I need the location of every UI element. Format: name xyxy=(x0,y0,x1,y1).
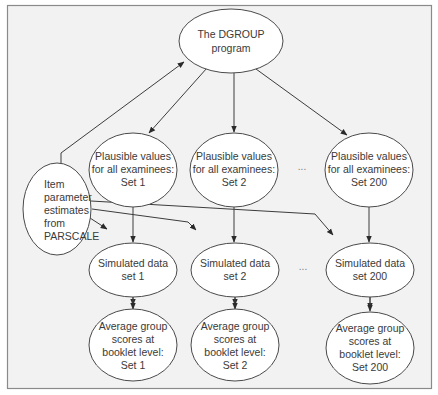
node-pv1: Plausible values for all examinees: Set … xyxy=(89,133,177,207)
node-pv2-line1: Plausible values xyxy=(196,150,272,162)
node-avg200-line2: scores at xyxy=(349,335,392,347)
node-avg1-line4: Set 1 xyxy=(121,359,146,371)
ellipsis-pv: ... xyxy=(298,161,306,172)
node-sim2: Simulated data set 2 xyxy=(191,243,279,297)
node-sim1-line2: set 1 xyxy=(122,270,145,282)
node-avg2-line3: booklet level: xyxy=(204,346,265,358)
node-pv200-line3: Set 200 xyxy=(351,176,387,188)
node-avg1-line1: Average group xyxy=(99,320,168,332)
node-avg1-line2: scores at xyxy=(112,333,155,345)
node-sim200-line1: Simulated data xyxy=(335,257,405,269)
node-pv200-line1: Plausible values xyxy=(331,150,407,162)
node-avg200: Average group scores at booklet level: S… xyxy=(326,312,414,384)
node-pv200-line2: for all examinees: xyxy=(328,163,410,175)
node-parscale-line2: parameter xyxy=(44,191,92,203)
node-avg2-line4: Set 2 xyxy=(223,359,248,371)
node-pv2-line2: for all examinees: xyxy=(193,163,275,175)
node-pv1-line2: for all examinees: xyxy=(92,163,174,175)
node-avg200-line4: Set 200 xyxy=(352,361,388,373)
node-avg2-line1: Average group xyxy=(201,320,270,332)
node-sim2-line2: set 2 xyxy=(224,270,247,282)
node-pv1-line1: Plausible values xyxy=(95,150,171,162)
flow-diagram: The DGROUP program Plausible values for … xyxy=(0,0,438,395)
node-dgroup-line1: The DGROUP xyxy=(197,28,264,40)
node-avg2-line2: scores at xyxy=(214,333,257,345)
node-avg2: Average group scores at booklet level: S… xyxy=(191,309,279,381)
node-pv200: Plausible values for all examinees: Set … xyxy=(325,133,413,207)
node-avg1: Average group scores at booklet level: S… xyxy=(89,309,177,381)
node-dgroup-line2: program xyxy=(211,42,250,54)
node-sim1-line1: Simulated data xyxy=(98,257,168,269)
node-avg200-line1: Average group xyxy=(336,322,405,334)
node-sim2-line1: Simulated data xyxy=(200,257,270,269)
node-dgroup: The DGROUP program xyxy=(179,9,283,73)
node-avg1-line3: booklet level: xyxy=(102,346,163,358)
node-sim200-line2: set 200 xyxy=(353,270,388,282)
node-parscale-line5: PARSCALE xyxy=(44,230,99,242)
node-avg200-line3: booklet level: xyxy=(339,348,400,360)
node-sim1: Simulated data set 1 xyxy=(89,243,177,297)
node-pv2: Plausible values for all examinees: Set … xyxy=(190,133,278,207)
node-parscale-line4: from xyxy=(44,217,65,229)
ellipsis-sim: ... xyxy=(299,261,307,272)
node-sim200: Simulated data set 200 xyxy=(326,243,414,297)
node-pv1-line3: Set 1 xyxy=(121,176,146,188)
node-parscale-line1: Item xyxy=(44,178,65,190)
node-parscale-line3: estimates xyxy=(44,204,89,216)
node-pv2-line3: Set 2 xyxy=(222,176,247,188)
